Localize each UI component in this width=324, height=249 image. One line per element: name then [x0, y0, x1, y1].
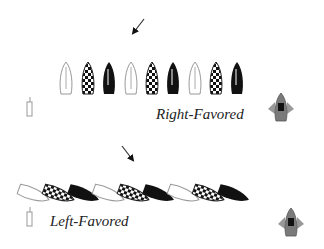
- boat-checkered-icon: [146, 62, 158, 94]
- committee-boat-icon: [268, 93, 294, 121]
- wind-arrow-icon: [122, 146, 132, 159]
- boat-black-icon: [217, 183, 251, 205]
- boat-row: [60, 62, 243, 94]
- pin-mark-icon: [27, 207, 32, 226]
- right-favored-label: Right-Favored: [156, 106, 244, 123]
- boat-black-icon: [231, 62, 243, 94]
- committee-boat-icon: [278, 208, 304, 236]
- boat-checkered-icon: [210, 62, 222, 94]
- pin-mark-icon: [27, 97, 32, 116]
- boat-outline-icon: [189, 62, 201, 94]
- boat-outline-icon: [60, 62, 72, 94]
- boat-black-icon: [167, 62, 179, 94]
- left-favored-label: Left-Favored: [50, 213, 129, 230]
- boat-checkered-icon: [82, 62, 94, 94]
- boat-outline-icon: [125, 62, 137, 94]
- left-favored-panel: [0, 130, 324, 249]
- boat-black-icon: [103, 62, 115, 94]
- wind-arrow-icon: [134, 19, 144, 32]
- boat-row: [17, 183, 251, 205]
- start-line-diagram: Right-Favored: [0, 0, 324, 249]
